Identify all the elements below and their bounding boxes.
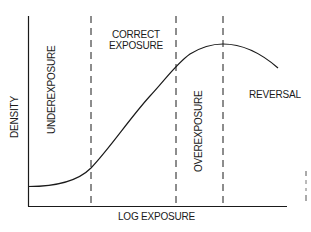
y-axis-label: DENSITY	[9, 96, 20, 138]
region-label-reversal: REVERSAL	[249, 89, 301, 100]
x-axis-label: LOG EXPOSURE	[118, 211, 195, 222]
density-curve	[29, 44, 279, 187]
correct-line-1: CORRECT	[106, 29, 166, 40]
region-label-underexposure: UNDEREXPOSURE	[46, 45, 57, 134]
region-label-correct-exposure: CORRECT EXPOSURE	[106, 29, 166, 51]
correct-line-2: EXPOSURE	[106, 40, 166, 51]
region-label-overexposure: OVEREXPOSURE	[193, 90, 204, 172]
